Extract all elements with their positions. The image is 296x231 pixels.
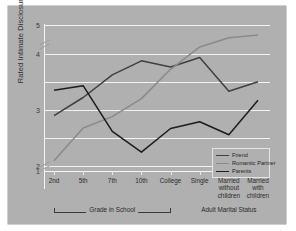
series-line-friend bbox=[54, 57, 258, 115]
legend-label: Romantic Partner bbox=[232, 160, 276, 166]
legend-label: Parents bbox=[232, 168, 251, 174]
group-bracket: Adult Marital Status bbox=[200, 208, 258, 216]
x-tick bbox=[83, 171, 84, 175]
legend-item: Friend bbox=[216, 151, 267, 159]
x-tick bbox=[200, 171, 201, 175]
x-tick bbox=[54, 171, 55, 175]
legend-color-swatch bbox=[216, 163, 229, 164]
x-tick-label: Married with children bbox=[238, 177, 278, 199]
legend-item: Parents bbox=[216, 167, 267, 175]
chart-figure: Rated Intimate Disclosure 12345 2nd5th7t… bbox=[8, 6, 286, 224]
bracket-label: Adult Marital Status bbox=[198, 206, 259, 213]
series-line-romantic-partner bbox=[54, 35, 258, 161]
legend-color-swatch bbox=[216, 155, 229, 156]
x-tick bbox=[171, 171, 172, 175]
bracket-label: Grade in School bbox=[86, 206, 138, 213]
group-bracket: Grade in School bbox=[54, 208, 171, 216]
legend-item: Romantic Partner bbox=[216, 159, 267, 167]
bracket-tick-right bbox=[170, 208, 171, 213]
x-tick bbox=[112, 171, 113, 175]
chart-legend: FriendRomantic PartnerParents bbox=[212, 148, 270, 178]
legend-label: Friend bbox=[232, 152, 248, 158]
x-tick bbox=[141, 171, 142, 175]
legend-color-swatch bbox=[216, 171, 229, 172]
